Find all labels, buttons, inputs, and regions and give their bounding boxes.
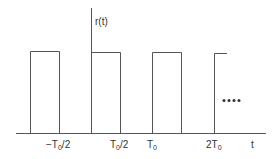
function-label: r(t) xyxy=(95,16,108,27)
tick-label-two-periods: 2T0 xyxy=(206,139,222,151)
pulse-1 xyxy=(31,52,60,134)
pulse-train-diagram: r(t) −T0/2 T0/2 T0 2T0 t xyxy=(0,0,280,159)
pulse-3 xyxy=(153,53,182,134)
time-axis-label: t xyxy=(251,139,254,150)
tick-label-neg-half-period: −T0/2 xyxy=(46,139,71,151)
tick-label-half-period: T0/2 xyxy=(110,139,129,151)
pulse-2 xyxy=(92,53,121,134)
pulse-4 xyxy=(215,54,228,134)
tick-label-period: T0 xyxy=(147,139,157,151)
continuation-dots xyxy=(223,99,241,102)
